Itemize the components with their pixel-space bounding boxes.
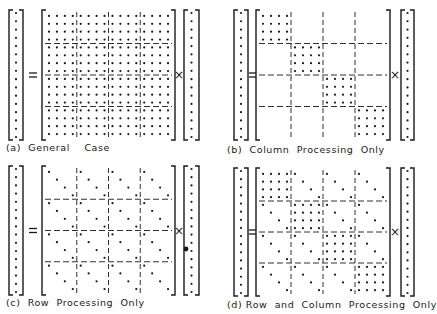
result-vector-c (9, 166, 23, 295)
panel-a: × (9, 10, 199, 140)
input-vector-b (401, 10, 414, 140)
input-vector-a (184, 10, 199, 140)
equals-sign-a (29, 73, 37, 77)
input-vector-d (401, 168, 414, 296)
equals-sign-d (249, 230, 256, 234)
panel-d: × (234, 168, 414, 296)
panel-c: × (9, 166, 199, 295)
result-vector-d (234, 168, 248, 296)
panel-b: × (234, 10, 414, 140)
times-sign-a: × (174, 68, 184, 82)
input-vector-c (184, 166, 199, 295)
matrix-d (256, 168, 390, 296)
times-sign-c: × (174, 224, 184, 238)
caption-c: (c) Row Processing Only (6, 297, 145, 308)
result-vector-b (234, 10, 248, 140)
equals-sign-b (249, 73, 256, 77)
caption-a: (a) General Case (6, 142, 110, 153)
equals-sign-c (29, 229, 37, 233)
result-vector-a (9, 10, 23, 140)
matrix-c (42, 166, 175, 295)
times-sign-d: × (390, 225, 400, 239)
caption-b: (b) Column Processing Only (227, 144, 385, 155)
times-sign-b: × (390, 68, 400, 82)
matrix-a (42, 10, 175, 140)
matrix-b (256, 10, 390, 140)
caption-d: (d) Row and Column Processing Only (227, 299, 437, 310)
ink-blot (184, 247, 189, 252)
